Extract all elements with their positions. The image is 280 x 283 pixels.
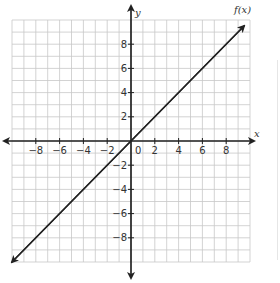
- x-tick-label: −6: [52, 145, 67, 156]
- y-tick-label: 6: [121, 63, 127, 74]
- x-tick-label: −2: [100, 145, 115, 156]
- x-tick-label: 6: [199, 145, 205, 156]
- series-line-reverse: [12, 26, 244, 262]
- page-edge-divider: [277, 60, 278, 260]
- y-tick-label: −2: [112, 160, 127, 171]
- x-tick-label: −4: [76, 145, 91, 156]
- y-tick-label: −8: [112, 232, 127, 243]
- x-tick-label: −8: [28, 145, 43, 156]
- coordinate-plane: −8−6−4−2024688642−2−4−6−8 x y f(x): [0, 0, 280, 283]
- x-tick-label: 2: [152, 145, 158, 156]
- x-tick-label: 8: [223, 145, 229, 156]
- function-line: [12, 26, 244, 262]
- y-tick-label: −4: [112, 184, 127, 195]
- x-tick-label: 4: [175, 145, 181, 156]
- y-tick-label: 4: [121, 87, 127, 98]
- y-axis-label: y: [134, 7, 141, 18]
- axes: [4, 6, 254, 278]
- x-axis-label: x: [254, 128, 260, 139]
- y-tick-label: 2: [121, 111, 127, 122]
- y-tick-label: 8: [121, 39, 127, 50]
- function-label: f(x): [233, 4, 251, 15]
- x-tick-label: 0: [135, 145, 141, 156]
- y-tick-label: −6: [112, 208, 127, 219]
